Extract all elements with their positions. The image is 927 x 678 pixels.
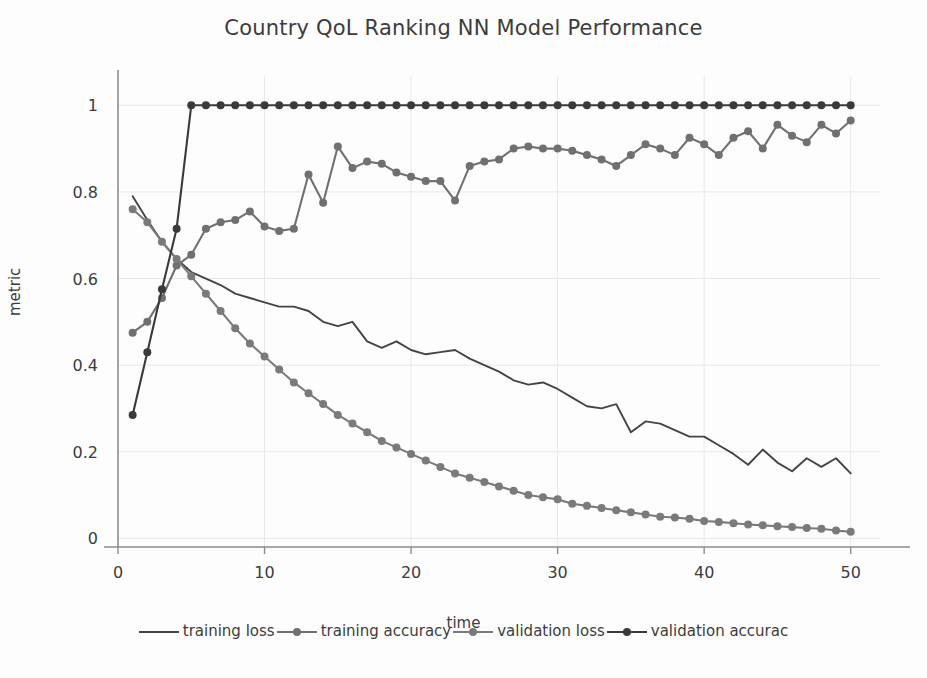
data-point bbox=[524, 142, 532, 150]
legend-item-validation-loss[interactable]: validation loss bbox=[453, 624, 605, 639]
data-series bbox=[129, 101, 855, 536]
data-point bbox=[627, 151, 635, 159]
data-point bbox=[480, 158, 488, 166]
data-point bbox=[715, 518, 723, 526]
data-point bbox=[759, 145, 767, 153]
data-point bbox=[598, 101, 606, 109]
data-point bbox=[803, 138, 811, 146]
x-tick-label: 20 bbox=[401, 563, 421, 582]
data-point bbox=[803, 101, 811, 109]
data-point bbox=[202, 225, 210, 233]
data-point bbox=[334, 142, 342, 150]
data-point bbox=[305, 171, 313, 179]
legend-item-validation-accurac[interactable]: validation accurac bbox=[607, 624, 788, 639]
data-point bbox=[246, 339, 254, 347]
data-point bbox=[275, 101, 283, 109]
y-tick-label: 0.6 bbox=[73, 270, 98, 289]
data-point bbox=[202, 101, 210, 109]
y-tick-label: 0.4 bbox=[73, 356, 98, 375]
data-point bbox=[173, 225, 181, 233]
data-point bbox=[290, 101, 298, 109]
data-point bbox=[847, 116, 855, 124]
legend-swatch-icon bbox=[139, 625, 179, 639]
data-point bbox=[466, 474, 474, 482]
data-point bbox=[231, 324, 239, 332]
data-point bbox=[129, 411, 137, 419]
data-point bbox=[466, 101, 474, 109]
data-point bbox=[422, 456, 430, 464]
data-point bbox=[187, 101, 195, 109]
data-point bbox=[378, 160, 386, 168]
data-point bbox=[363, 428, 371, 436]
data-point bbox=[568, 500, 576, 508]
data-point bbox=[803, 524, 811, 532]
data-point bbox=[363, 101, 371, 109]
data-point bbox=[261, 223, 269, 231]
x-tick-label: 0 bbox=[113, 563, 123, 582]
data-point bbox=[305, 101, 313, 109]
data-point bbox=[686, 515, 694, 523]
data-point bbox=[554, 145, 562, 153]
data-point bbox=[143, 218, 151, 226]
data-point bbox=[319, 400, 327, 408]
data-point bbox=[744, 101, 752, 109]
data-point bbox=[202, 290, 210, 298]
data-point bbox=[217, 101, 225, 109]
data-point bbox=[480, 101, 488, 109]
legend-label: training accuracy bbox=[321, 624, 452, 639]
data-point bbox=[348, 101, 356, 109]
data-point bbox=[510, 487, 518, 495]
data-point bbox=[451, 469, 459, 477]
x-tick-label: 10 bbox=[254, 563, 274, 582]
data-point bbox=[363, 158, 371, 166]
data-point bbox=[246, 207, 254, 215]
data-point bbox=[187, 272, 195, 280]
x-tick-label: 30 bbox=[547, 563, 567, 582]
data-point bbox=[319, 199, 327, 207]
data-point bbox=[788, 101, 796, 109]
data-point bbox=[700, 140, 708, 148]
data-point bbox=[495, 155, 503, 163]
data-point bbox=[773, 522, 781, 530]
data-point bbox=[583, 502, 591, 510]
chart-figure: Country QoL Ranking NN Model Performance… bbox=[0, 0, 927, 678]
data-point bbox=[598, 155, 606, 163]
data-point bbox=[656, 513, 664, 521]
data-point bbox=[290, 378, 298, 386]
data-point bbox=[510, 145, 518, 153]
data-point bbox=[686, 101, 694, 109]
data-point bbox=[275, 227, 283, 235]
data-point bbox=[407, 101, 415, 109]
data-point bbox=[700, 517, 708, 525]
data-point bbox=[715, 101, 723, 109]
legend-item-training-loss[interactable]: training loss bbox=[139, 624, 275, 639]
legend-swatch-icon bbox=[453, 625, 493, 639]
series-line-validation-loss bbox=[133, 209, 851, 532]
data-point bbox=[436, 177, 444, 185]
data-point bbox=[759, 101, 767, 109]
data-point bbox=[407, 450, 415, 458]
data-point bbox=[612, 101, 620, 109]
legend-item-training-accuracy[interactable]: training accuracy bbox=[277, 624, 452, 639]
data-point bbox=[334, 101, 342, 109]
data-point bbox=[129, 205, 137, 213]
data-point bbox=[436, 101, 444, 109]
data-point bbox=[817, 101, 825, 109]
data-point bbox=[832, 129, 840, 137]
data-point bbox=[348, 420, 356, 428]
data-point bbox=[817, 525, 825, 533]
axis-ticks: 00.20.40.60.8101020304050 bbox=[73, 96, 861, 582]
data-point bbox=[217, 307, 225, 315]
y-tick-label: 0 bbox=[88, 529, 98, 548]
data-point bbox=[451, 101, 459, 109]
data-point bbox=[642, 101, 650, 109]
data-point bbox=[729, 101, 737, 109]
data-point bbox=[671, 514, 679, 522]
data-point bbox=[759, 521, 767, 529]
data-point bbox=[319, 101, 327, 109]
y-tick-label: 0.8 bbox=[73, 183, 98, 202]
data-point bbox=[715, 151, 723, 159]
data-point bbox=[422, 101, 430, 109]
data-point bbox=[817, 121, 825, 129]
data-point bbox=[847, 528, 855, 536]
